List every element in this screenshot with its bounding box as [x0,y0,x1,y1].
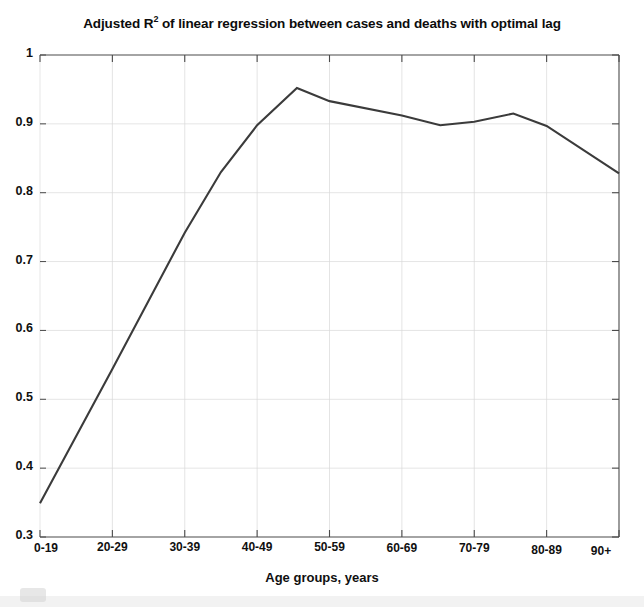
y-tick-label: 0.7 [0,253,33,267]
y-tick-label: 0.3 [0,528,33,542]
x-tick-label: 90+ [573,544,629,558]
x-tick-label: 0-19 [18,541,74,555]
gridlines [40,55,619,537]
x-tick-label: 40-49 [217,540,297,554]
x-tick-label: 50-59 [290,540,370,554]
y-tick-label: 0.4 [0,459,33,473]
y-tick-label: 0.8 [0,184,33,198]
x-tick-label: 70-79 [434,541,514,555]
y-tick-label: 0.6 [0,321,33,335]
y-tick-label: 0.5 [0,390,33,404]
y-tick-label: 1 [0,46,33,60]
x-tick-label: 20-29 [72,540,152,554]
chart-figure: Adjusted R2 of linear regression between… [0,0,644,607]
plot-area [0,0,644,607]
y-tick-label: 0.9 [0,115,33,129]
x-axis-label: Age groups, years [0,570,644,585]
x-tick-label: 60-69 [362,541,442,555]
x-tick-label: 30-39 [145,540,225,554]
